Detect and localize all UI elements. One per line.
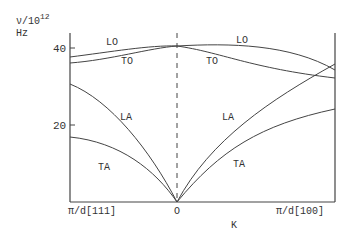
curve-label-ta-left: TA — [98, 162, 110, 173]
curve-label-lo-left: LO — [106, 37, 118, 48]
curve-ta-right — [177, 109, 335, 202]
curve-ta-left — [70, 137, 177, 202]
y-axis-label: ν/1012 — [16, 12, 50, 27]
x-tick-label-100: π/d[100] — [276, 206, 324, 217]
x-tick-label-111: π/d[111] — [68, 206, 116, 217]
y-axis-unit: Hz — [16, 28, 28, 39]
curve-label-la-left: LA — [120, 112, 132, 123]
curve-la-left — [70, 84, 177, 202]
y-tick-label-40: 40 — [53, 43, 66, 55]
curve-la-right — [177, 64, 335, 202]
curve-label-lo-right: LO — [236, 35, 248, 46]
x-axis-label: K — [231, 220, 237, 231]
phonon-dispersion-chart: ν/1012 Hz 40 20 LO TO LO TO LA LA TA TA … — [0, 0, 349, 237]
curve-label-la-right: LA — [222, 112, 234, 123]
curve-label-to-right: TO — [206, 56, 218, 67]
curve-label-to-left: TO — [121, 56, 133, 67]
curve-lo-right — [177, 45, 335, 70]
y-tick-label-20: 20 — [53, 120, 66, 132]
curve-label-ta-right: TA — [233, 159, 245, 170]
x-tick-label-origin: O — [174, 206, 180, 217]
curve-to-right — [177, 46, 335, 78]
